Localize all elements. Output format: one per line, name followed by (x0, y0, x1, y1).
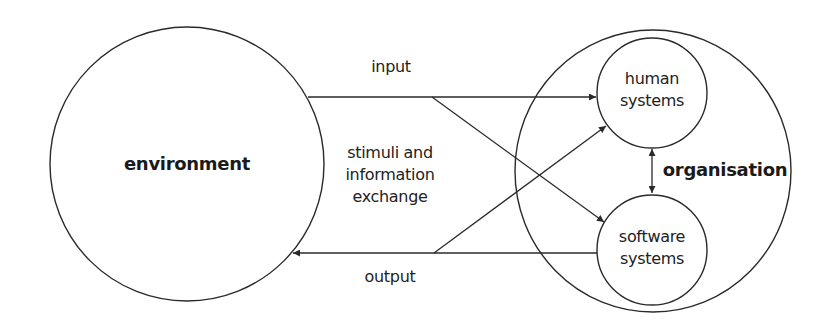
human-systems-label-line2: systems (602, 90, 702, 112)
environment-label: environment (107, 153, 267, 175)
system-environment-diagram: environment organisation human systems s… (0, 0, 828, 329)
exchange-label-line2: information (330, 164, 450, 186)
organisation-label: organisation (660, 159, 790, 181)
output-label: output (350, 266, 430, 288)
input-label: input (356, 56, 426, 78)
software-systems-label-line1: software (597, 226, 707, 248)
output-to-human-arrow (434, 126, 606, 253)
human-systems-label-line1: human (602, 68, 702, 90)
exchange-label-line3: exchange (330, 186, 450, 208)
software-systems-label-line2: systems (597, 248, 707, 270)
exchange-label-line1: stimuli and (330, 142, 450, 164)
